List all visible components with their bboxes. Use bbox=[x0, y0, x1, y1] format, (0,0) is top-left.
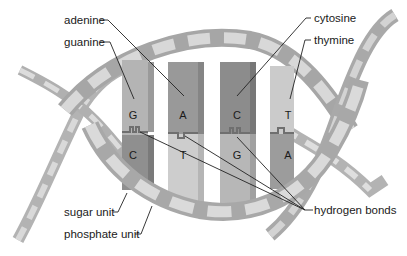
label-guanine: guanine bbox=[64, 36, 105, 48]
label-thymine: thymine bbox=[314, 34, 354, 46]
dna-diagram: G C A T C G T A adenine guanine cytosine… bbox=[0, 0, 407, 256]
base-top-3: C bbox=[233, 109, 241, 121]
label-hydrogen-bonds: hydrogen bonds bbox=[314, 204, 397, 216]
base-bottom-4: A bbox=[284, 149, 292, 161]
label-adenine: adenine bbox=[64, 14, 105, 26]
base-top-1: G bbox=[129, 109, 138, 121]
label-phosphate-unit: phosphate unit bbox=[64, 228, 140, 240]
base-top-2: A bbox=[179, 109, 187, 121]
label-sugar-unit: sugar unit bbox=[64, 206, 115, 218]
label-cytosine: cytosine bbox=[314, 12, 356, 24]
base-bottom-3: G bbox=[233, 149, 242, 161]
base-top-4: T bbox=[285, 109, 292, 121]
base-bottom-1: C bbox=[129, 149, 137, 161]
